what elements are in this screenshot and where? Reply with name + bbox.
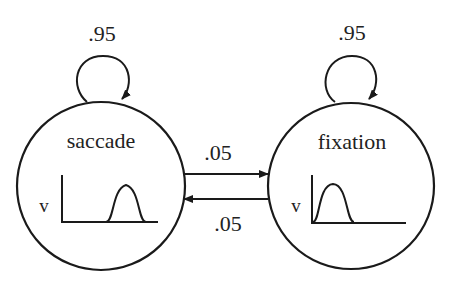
transition-saccade-to-fixation-prob: .05	[204, 140, 232, 165]
saccade-self-loop-arrow	[77, 56, 129, 102]
fixation-axis-label: v	[291, 195, 301, 216]
state-saccade: saccade v .95	[17, 21, 185, 270]
fixation-label: fixation	[318, 129, 386, 154]
fixation-self-loop-arrow	[326, 56, 377, 102]
state-fixation: fixation v .95	[268, 20, 434, 269]
transition-fixation-to-saccade-prob: .05	[214, 211, 242, 236]
fixation-self-prob: .95	[338, 20, 366, 45]
saccade-axis-label: v	[39, 195, 49, 216]
fixation-velocity-curve	[313, 184, 354, 222]
saccade-velocity-curve	[106, 185, 146, 222]
fixation-circle	[268, 103, 434, 269]
fixation-velocity-axes	[312, 175, 406, 223]
saccade-self-prob: .95	[88, 21, 116, 46]
transitions: .05 .05	[184, 140, 268, 236]
saccade-label: saccade	[67, 128, 135, 153]
hmm-diagram: saccade v .95 fixation v .95 .05 .05	[0, 0, 456, 287]
